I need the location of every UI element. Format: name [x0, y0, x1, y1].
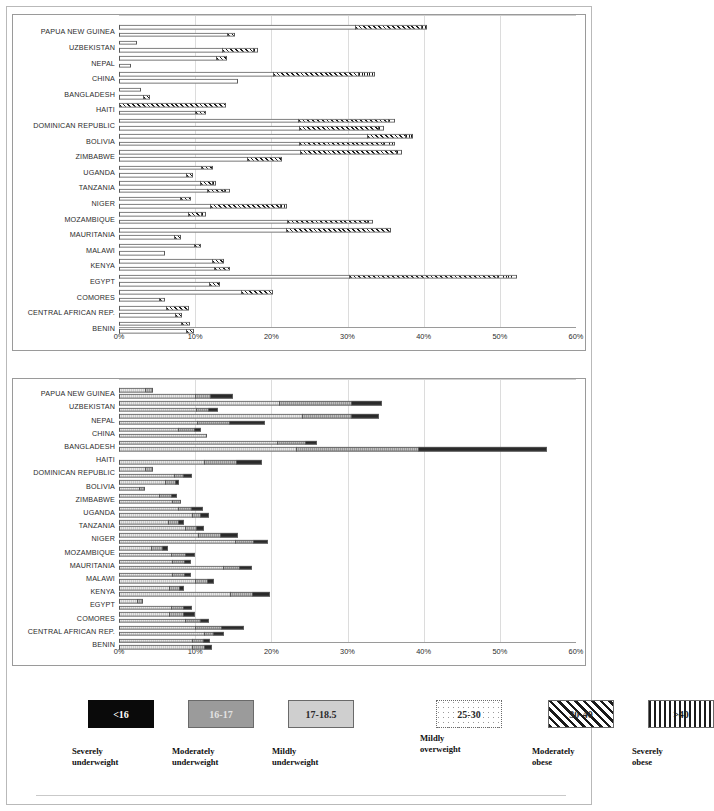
- bar: [119, 500, 181, 505]
- bar-segment: [279, 401, 351, 406]
- bar-segment: [351, 414, 379, 419]
- bar-segment: [119, 329, 186, 334]
- bar-segment: [184, 573, 190, 578]
- bar-segment: [208, 407, 218, 412]
- bar-segment: [119, 220, 287, 225]
- category-label: NEPAL: [91, 415, 115, 424]
- category-label: TANZANIA: [79, 183, 115, 192]
- bar-segment: [119, 157, 247, 162]
- bar: [119, 566, 252, 571]
- chart-top-category-labels: PAPUA NEW GUINEAUZBEKISTANNEPALCHINABANG…: [13, 15, 119, 350]
- bar: [119, 251, 165, 256]
- bar-segment: [300, 150, 396, 155]
- category-label: PAPUA NEW GUINEA: [41, 389, 115, 398]
- bar-segment: [224, 188, 230, 193]
- bar: [119, 32, 235, 37]
- bar-segment: [383, 142, 395, 147]
- bar-segment: [119, 298, 159, 303]
- bar-segment: [119, 539, 235, 544]
- category-label: BANGLADESH: [64, 89, 115, 98]
- x-tick-label: 50%: [492, 332, 507, 341]
- category-label: MOZAMBIQUE: [64, 214, 115, 223]
- bar-segment: [119, 173, 186, 178]
- category-label: EGYPT: [90, 600, 115, 609]
- bar: [119, 394, 233, 399]
- bar-segment: [230, 592, 251, 597]
- bar-segment: [119, 64, 131, 69]
- category-label: TANZANIA: [79, 521, 115, 530]
- category-label: KENYA: [90, 261, 115, 270]
- bar: [119, 493, 177, 498]
- bar: [119, 64, 131, 69]
- category-label: DOMINICAN REPUBLIC: [33, 120, 115, 129]
- bar: [119, 48, 258, 53]
- bar-segment: [119, 500, 172, 505]
- legend-caption: Moderately underweight: [172, 746, 218, 767]
- bar-segment: [119, 573, 172, 578]
- legend-caption: Moderately obese: [532, 746, 574, 767]
- bar-segment: [145, 388, 153, 393]
- bar-segment: [203, 639, 211, 644]
- bar-segment: [169, 586, 179, 591]
- bar-segment: [367, 134, 405, 139]
- bar: [119, 552, 195, 557]
- bar-segment: [119, 493, 159, 498]
- bar-segment: [220, 533, 238, 538]
- bar-segment: [196, 526, 204, 531]
- bar-segment: [241, 290, 273, 295]
- category-label: CENTRAL AFRICAN REP.: [28, 308, 115, 317]
- bar-segment: [221, 625, 244, 630]
- x-tick-label: 40%: [416, 332, 431, 341]
- bar-segment: [207, 188, 224, 193]
- bar-segment: [195, 394, 210, 399]
- category-label: NIGER: [91, 534, 115, 543]
- bar-segment: [119, 533, 198, 538]
- bar-segment: [119, 306, 166, 311]
- bar: [119, 486, 145, 491]
- bar-segment: [200, 618, 209, 623]
- category-label: BOLIVIA: [86, 136, 115, 145]
- bar-segment: [119, 460, 204, 465]
- bar-segment: [143, 95, 150, 100]
- bar-segment: [171, 605, 183, 610]
- bar-segment: [119, 618, 185, 623]
- category-label: HAITI: [96, 455, 115, 464]
- bar: [119, 401, 382, 406]
- bar: [119, 103, 226, 108]
- category-label: BENIN: [92, 639, 115, 648]
- bar-segment: [119, 197, 180, 202]
- bar: [119, 579, 214, 584]
- bar: [119, 79, 238, 84]
- chart-underweight: PAPUA NEW GUINEAUZBEKISTANNEPALCHINABANG…: [12, 378, 586, 666]
- bar-segment: [119, 119, 298, 124]
- bar-segment: [287, 220, 367, 225]
- bar: [119, 181, 216, 186]
- bar-segment: [119, 134, 367, 139]
- bar-segment: [119, 259, 212, 264]
- bar-segment: [119, 181, 200, 186]
- bar: [119, 228, 391, 233]
- bar-segment: [351, 401, 381, 406]
- bar: [119, 298, 165, 303]
- bar-segment: [119, 79, 238, 84]
- bar: [119, 447, 547, 452]
- bar-segment: [252, 592, 270, 597]
- bar: [119, 533, 238, 538]
- bar-segment: [166, 306, 189, 311]
- bar: [119, 559, 191, 564]
- chart-top-plot-area: 0%10%20%30%40%50%60%: [119, 15, 576, 350]
- bar-segment: [178, 507, 190, 512]
- bar: [119, 546, 168, 551]
- bar: [119, 507, 203, 512]
- category-label: ZIMBABWE: [75, 152, 115, 161]
- bar-segment: [191, 507, 203, 512]
- bar-segment: [119, 275, 349, 280]
- bar-segment: [119, 150, 300, 155]
- x-tick-label: 10%: [188, 332, 203, 341]
- bar-segment: [388, 119, 396, 124]
- bar: [119, 539, 268, 544]
- bar-segment: [201, 165, 212, 170]
- chart-bottom-plot-area: 0%10%20%30%40%50%60%: [119, 379, 576, 665]
- bar-segment: [186, 173, 193, 178]
- bar-segment: [229, 420, 266, 425]
